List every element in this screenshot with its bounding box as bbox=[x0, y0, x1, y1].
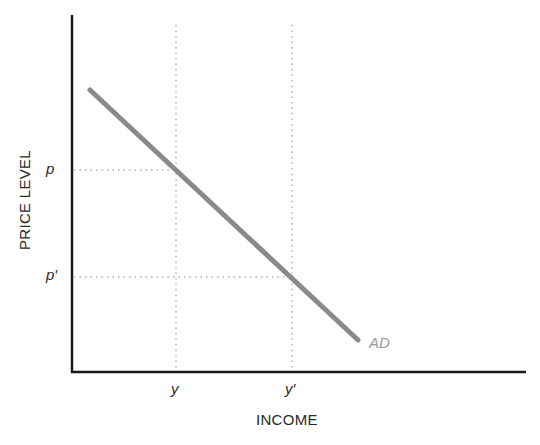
ad-curve-label: AD bbox=[369, 334, 390, 351]
tick-label-p-prime: p′ bbox=[46, 266, 57, 283]
tick-label-y: y bbox=[171, 380, 179, 397]
tick-label-y-prime: y′ bbox=[285, 380, 295, 397]
ad-curve bbox=[90, 90, 358, 340]
x-axis-label: INCOME bbox=[256, 411, 318, 428]
diagram-canvas bbox=[0, 0, 540, 445]
tick-label-p: p bbox=[46, 160, 54, 177]
y-axis-label: PRICE LEVEL bbox=[16, 150, 33, 250]
